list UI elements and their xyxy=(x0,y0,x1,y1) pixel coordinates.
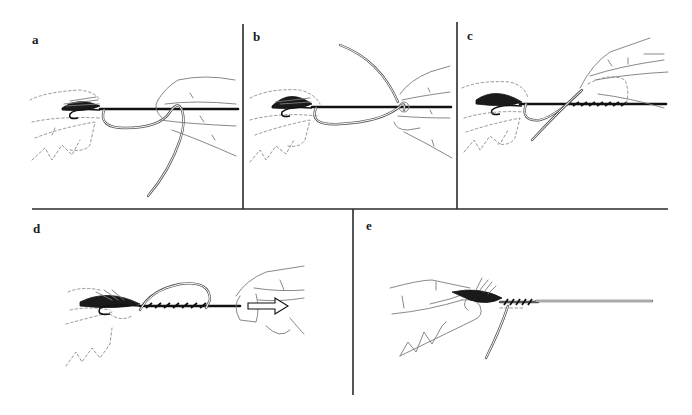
panel-label-a: a xyxy=(32,32,39,47)
knot-diagram: a b c d e xyxy=(0,0,692,415)
fly-icon xyxy=(62,97,100,119)
hand-icon xyxy=(580,38,668,108)
panel-label-b: b xyxy=(253,29,260,44)
tippet-loop xyxy=(314,45,409,124)
fly-icon xyxy=(452,278,524,308)
tippet-loop xyxy=(525,90,582,140)
panel-a-illustration xyxy=(30,77,238,196)
leader-tippet xyxy=(486,301,652,358)
fly-icon xyxy=(80,290,140,319)
panel-label-d: d xyxy=(33,221,41,236)
panel-e-illustration xyxy=(390,278,652,358)
ghost-hand-icon xyxy=(30,90,100,160)
fly-icon xyxy=(272,96,312,116)
ghost-hand-icon xyxy=(462,82,528,152)
panel-label-c: c xyxy=(467,28,473,43)
tippet-loop xyxy=(103,105,184,196)
panel-frames xyxy=(32,22,668,395)
hand-icon xyxy=(236,266,304,334)
knot-wraps xyxy=(500,299,538,305)
panel-label-e: e xyxy=(366,218,372,233)
panel-b-illustration xyxy=(250,45,452,162)
panel-c-illustration xyxy=(462,38,668,152)
panel-d-illustration xyxy=(66,266,304,366)
